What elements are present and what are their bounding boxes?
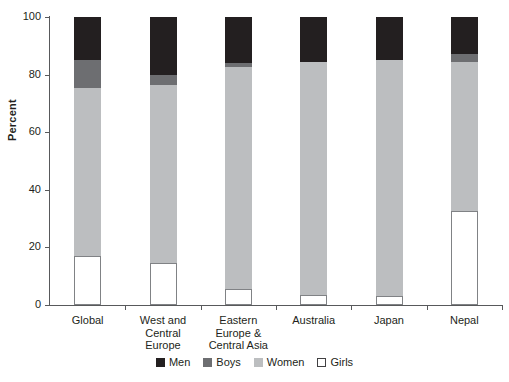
legend-item-label: Women: [267, 356, 305, 368]
legend-item-girls[interactable]: Girls: [317, 356, 353, 368]
x-category-label: Eastern Europe & Central Asia: [201, 314, 276, 352]
x-tick-mark: [502, 305, 503, 310]
y-tick-label: 80: [0, 69, 41, 80]
y-tick-label: 60: [0, 126, 41, 137]
bar-segment-women: [150, 85, 177, 264]
bar-segment-girls: [225, 289, 252, 305]
x-tick-mark: [427, 305, 428, 310]
bar-segment-men: [300, 17, 327, 62]
bar-column: [451, 17, 478, 305]
men-swatch-icon: [156, 358, 165, 367]
x-tick-mark: [276, 305, 277, 310]
bar-segment-men: [74, 17, 101, 60]
legend-item-men[interactable]: Men: [156, 356, 190, 368]
legend-item-women[interactable]: Women: [254, 356, 305, 368]
x-category-label: Nepal: [427, 314, 502, 327]
bar-segment-girls: [300, 295, 327, 305]
legend-item-label: Boys: [216, 356, 240, 368]
chart-legend: MenBoysWomenGirls: [0, 356, 509, 368]
bar-segment-boys: [451, 54, 478, 61]
x-tick-mark: [125, 305, 126, 310]
y-tick-label: 100: [0, 11, 41, 22]
y-tick-label: 20: [0, 241, 41, 252]
bar-segment-boys: [225, 63, 252, 67]
x-tick-mark: [351, 305, 352, 310]
bar-column: [300, 17, 327, 305]
bar-segment-girls: [451, 211, 478, 305]
y-tick-label: 40: [0, 184, 41, 195]
bar-segment-men: [451, 17, 478, 54]
x-category-label: Australia: [276, 314, 351, 327]
bar-segment-men: [376, 17, 403, 60]
bar-segment-girls: [74, 256, 101, 305]
x-tick-mark: [201, 305, 202, 310]
bar-segment-women: [74, 88, 101, 256]
bar-column: [376, 17, 403, 305]
bar-segment-boys: [74, 60, 101, 87]
bar-column: [150, 17, 177, 305]
x-category-label: Global: [50, 314, 125, 327]
legend-item-label: Girls: [330, 356, 353, 368]
bar-segment-girls: [376, 296, 403, 305]
bar-segment-girls: [150, 263, 177, 305]
bar-segment-women: [376, 60, 403, 296]
y-tick-mark: [45, 305, 50, 306]
women-swatch-icon: [254, 358, 263, 367]
bar-segment-men: [225, 17, 252, 63]
legend-item-boys[interactable]: Boys: [203, 356, 240, 368]
bar-segment-women: [225, 67, 252, 289]
plot-area: [50, 17, 502, 305]
x-category-label: Japan: [351, 314, 426, 327]
bar-segment-boys: [150, 75, 177, 85]
bar-segment-women: [451, 62, 478, 212]
stacked-bar-chart: Percent 020406080100 GlobalWest and Cent…: [0, 0, 509, 382]
legend-item-label: Men: [169, 356, 190, 368]
x-category-label: West and Central Europe: [125, 314, 200, 352]
bar-segment-women: [300, 62, 327, 295]
bar-column: [225, 17, 252, 305]
bar-segment-men: [150, 17, 177, 75]
girls-swatch-icon: [317, 358, 326, 367]
bar-column: [74, 17, 101, 305]
y-tick-label: 0: [0, 299, 41, 310]
boys-swatch-icon: [203, 358, 212, 367]
